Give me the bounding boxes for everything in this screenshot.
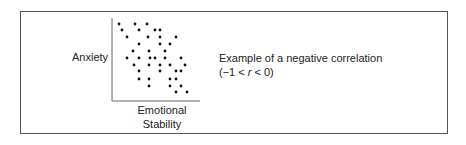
data-point [138,43,141,46]
data-point [148,78,151,81]
data-point [134,23,137,26]
data-point [180,57,183,60]
correlation-caption: Example of a negative correlation (−1 < … [219,51,382,79]
data-point [164,57,167,60]
data-point [138,78,141,81]
data-point [175,36,178,39]
data-point [159,36,162,39]
data-point [159,64,162,67]
data-point [175,70,178,73]
data-point [175,78,178,81]
data-point [118,23,121,26]
data-point [148,50,151,53]
x-axis-label: Emotional Stability [120,103,204,131]
data-point [138,57,141,60]
data-point [146,23,149,26]
data-point [149,57,152,60]
data-points [118,23,189,94]
data-point [164,50,167,53]
caption-suffix: < 0) [251,66,273,78]
data-point [148,85,151,88]
caption-prefix: (−1 < [219,66,248,78]
x-axis-label-line1: Emotional [120,103,204,117]
data-point [180,85,183,88]
data-point [133,64,136,67]
data-point [154,29,157,32]
data-point [169,64,172,67]
data-point [132,50,135,53]
caption-line2: (−1 < r < 0) [219,65,382,79]
data-point [138,70,141,73]
data-point [169,78,172,81]
data-point [159,29,162,32]
x-axis-label-line2: Stability [120,117,204,131]
data-point [184,64,187,67]
data-point [169,85,172,88]
data-point [126,36,129,39]
data-point [147,36,150,39]
data-point [180,70,183,73]
data-point [154,57,157,60]
data-point [121,29,124,32]
data-point [186,91,189,94]
data-point [126,57,129,60]
data-point [138,29,141,32]
data-point [148,64,151,67]
data-point [159,70,162,73]
caption-line1: Example of a negative correlation [219,51,382,65]
data-point [169,43,172,46]
data-point [159,43,162,46]
data-point [175,91,178,94]
